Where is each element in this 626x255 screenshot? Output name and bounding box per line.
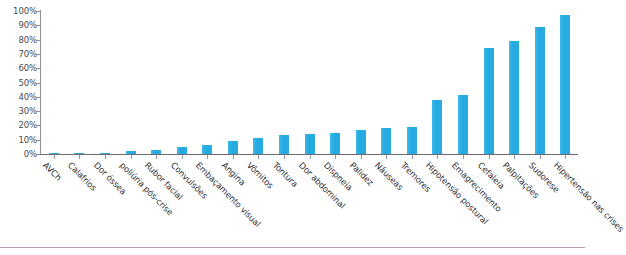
x-axis-tick-mark xyxy=(437,155,438,159)
x-axis-tick-mark xyxy=(489,155,490,159)
y-axis-tick-label: 20% xyxy=(18,120,37,130)
bar-slot xyxy=(169,11,195,154)
bar-series xyxy=(41,11,578,154)
y-axis-tick-label: 100% xyxy=(13,6,37,16)
y-axis-tick-label: 80% xyxy=(18,35,37,45)
x-axis-tick-mark xyxy=(182,155,183,159)
x-axis-tick-mark xyxy=(54,155,55,159)
bar xyxy=(330,133,340,154)
x-axis-label: Vômitos xyxy=(245,160,276,191)
bar xyxy=(305,134,315,154)
bar-slot xyxy=(322,11,348,154)
bar xyxy=(509,41,519,154)
x-axis-labels: AVChCalafriosDor ósseapoliúria pós-crise… xyxy=(41,160,578,255)
y-axis-tick-label: 60% xyxy=(18,63,37,73)
bar xyxy=(49,153,59,154)
x-axis-tick-slot xyxy=(450,155,476,159)
y-axis-tick-label: 0% xyxy=(24,149,37,159)
x-axis-tick-slot xyxy=(118,155,144,159)
bar xyxy=(100,153,110,154)
bar xyxy=(356,130,366,154)
y-axis-tick-label: 70% xyxy=(18,49,37,59)
x-axis-label: Tontura xyxy=(271,160,300,189)
x-axis-tick-mark xyxy=(565,155,566,159)
y-axis-tick-label: 40% xyxy=(18,92,37,102)
bar xyxy=(177,147,187,154)
x-axis-tick-slot xyxy=(297,155,323,159)
x-axis-tick-mark xyxy=(258,155,259,159)
x-axis-tick-slot xyxy=(348,155,374,159)
bar xyxy=(151,150,161,154)
y-axis-tick-label: 10% xyxy=(18,135,37,145)
bar xyxy=(407,127,417,154)
x-axis-label: Hipertensão nas crises xyxy=(552,160,626,234)
x-axis-tick-slot xyxy=(194,155,220,159)
x-axis-tick-slot xyxy=(169,155,195,159)
bar-slot xyxy=(220,11,246,154)
bar-slot xyxy=(297,11,323,154)
bar-slot xyxy=(399,11,425,154)
x-axis-tick-mark xyxy=(361,155,362,159)
x-axis-tick-slot xyxy=(425,155,451,159)
x-axis-tick-mark xyxy=(540,155,541,159)
bar xyxy=(279,135,289,154)
bar-slot xyxy=(118,11,144,154)
bar-slot xyxy=(348,11,374,154)
bar-slot xyxy=(246,11,272,154)
x-axis-tick-mark xyxy=(514,155,515,159)
y-axis-tick-label: 30% xyxy=(18,106,37,116)
x-axis-tick-slot xyxy=(41,155,67,159)
x-axis-tick-mark xyxy=(79,155,80,159)
x-axis-tick-mark xyxy=(412,155,413,159)
bar-slot xyxy=(553,11,579,154)
bar-slot xyxy=(92,11,118,154)
bar xyxy=(484,48,494,154)
y-axis-tick-label: 50% xyxy=(18,78,37,88)
bar xyxy=(381,128,391,154)
x-axis-tick-slot xyxy=(143,155,169,159)
x-axis-tick-mark xyxy=(463,155,464,159)
bar-slot xyxy=(450,11,476,154)
bar-slot xyxy=(476,11,502,154)
x-axis-tick-slot xyxy=(399,155,425,159)
x-axis-tick-slot xyxy=(501,155,527,159)
x-axis-tick-slot xyxy=(476,155,502,159)
bar-slot xyxy=(143,11,169,154)
y-axis: 100%90%80%70%60%50%40%30%20%10%0% xyxy=(0,0,37,255)
x-axis-tick-slot xyxy=(553,155,579,159)
bar xyxy=(458,95,468,154)
y-axis-tick-label: 90% xyxy=(18,20,37,30)
bar xyxy=(432,100,442,154)
x-axis-tick-mark xyxy=(233,155,234,159)
bar-slot xyxy=(41,11,67,154)
bar-slot xyxy=(271,11,297,154)
x-axis-tick-mark xyxy=(156,155,157,159)
x-axis-tick-mark xyxy=(335,155,336,159)
x-axis-tick-slot xyxy=(246,155,272,159)
x-axis-tick-mark xyxy=(284,155,285,159)
x-axis-tick-slot xyxy=(374,155,400,159)
bar-slot xyxy=(374,11,400,154)
bar-slot xyxy=(501,11,527,154)
x-axis-tick-slot xyxy=(322,155,348,159)
x-axis-tick-mark xyxy=(207,155,208,159)
bar-slot xyxy=(527,11,553,154)
x-axis-tick-slot xyxy=(271,155,297,159)
x-axis-tick-slot xyxy=(527,155,553,159)
bar xyxy=(126,151,136,154)
bar xyxy=(253,138,263,154)
x-axis-tick-mark xyxy=(131,155,132,159)
bar-slot xyxy=(425,11,451,154)
bar-slot xyxy=(67,11,93,154)
bar xyxy=(560,15,570,154)
bar xyxy=(202,145,212,154)
bar xyxy=(535,27,545,154)
x-axis-tick-slot xyxy=(67,155,93,159)
x-axis-ticks xyxy=(41,155,578,159)
x-axis-tick-mark xyxy=(386,155,387,159)
x-axis-tick-mark xyxy=(310,155,311,159)
x-axis-tick-slot xyxy=(92,155,118,159)
bar xyxy=(74,153,84,154)
x-axis-tick-mark xyxy=(105,155,106,159)
